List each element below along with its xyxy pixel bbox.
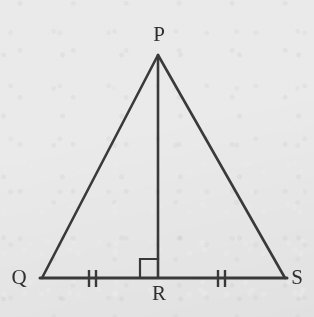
geometry-figure-canvas: P Q R S xyxy=(0,0,314,317)
right-angle-marker xyxy=(140,259,158,277)
side-ps-line xyxy=(158,55,285,278)
vertex-label-r: R xyxy=(152,283,166,304)
triangle-diagram xyxy=(0,0,314,317)
side-pq-line xyxy=(42,55,158,278)
vertex-label-s: S xyxy=(291,267,303,288)
vertex-label-p: P xyxy=(153,24,165,45)
vertex-label-q: Q xyxy=(11,267,26,288)
